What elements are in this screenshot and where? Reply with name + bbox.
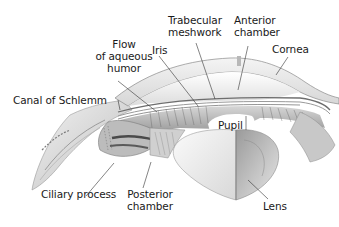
label-ciliary-process: Ciliary process [41, 188, 116, 200]
lens-shape [173, 130, 278, 201]
label-cornea: Cornea [272, 43, 309, 55]
label-trabecular-meshwork: Trabecular meshwork [168, 14, 222, 38]
label-anterior-chamber: Anterior chamber [234, 14, 280, 38]
label-pupil: Pupil [218, 119, 243, 131]
label-posterior-chamber: Posterior chamber [122, 188, 178, 212]
label-canal-of-schlemm: Canal of Schlemm [13, 94, 107, 106]
right-ciliary-tissue [290, 112, 335, 162]
eye-anatomy-diagram: Flow of aqueous humor Iris Trabecular me… [0, 0, 339, 227]
label-lens: Lens [263, 200, 287, 212]
label-iris: Iris [152, 44, 167, 56]
